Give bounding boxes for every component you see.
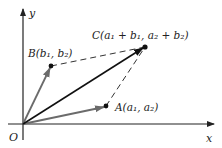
point-b bbox=[49, 64, 54, 69]
point-a-label: A(a₁, a₂) bbox=[114, 101, 158, 113]
point-c bbox=[142, 44, 147, 49]
x-axis-label: x bbox=[206, 132, 213, 145]
vector-addition-diagram: y x O B(b₁, b₂) C(a₁ + b₁, a₂ + b₂) A(a₁… bbox=[0, 0, 222, 148]
y-axis-label: y bbox=[28, 7, 36, 20]
point-b-label: B(b₁, b₂) bbox=[27, 47, 72, 59]
point-a bbox=[104, 104, 109, 109]
point-c-label: C(a₁ + b₁, a₂ + b₂) bbox=[92, 29, 189, 41]
origin-label: O bbox=[9, 131, 18, 144]
dashed-side-a-to-c bbox=[106, 47, 145, 106]
